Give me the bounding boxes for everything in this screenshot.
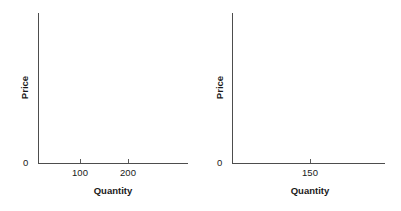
chart-panel-left: 100 200 0 Price Quantity: [0, 0, 200, 211]
x-tick-label-left-2: 200: [114, 167, 142, 178]
chart-panel-right: 150 0 Price Quantity: [200, 0, 401, 211]
x-axis-line-right: [232, 163, 385, 164]
origin-label-right: 0: [217, 157, 222, 168]
x-axis-title-left: Quantity: [63, 185, 163, 196]
x-tick-label-left-1: 100: [66, 167, 94, 178]
x-tick-mark-right-1: [310, 159, 311, 163]
y-axis-title-right: Price: [214, 68, 225, 108]
y-axis-line-right: [232, 13, 233, 164]
origin-label-left: 0: [23, 157, 28, 168]
x-tick-mark-left-1: [80, 159, 81, 163]
x-axis-line-left: [38, 163, 188, 164]
y-axis-title-left: Price: [19, 68, 30, 108]
x-tick-label-right-1: 150: [296, 167, 324, 178]
figure-canvas: 100 200 0 Price Quantity 150 0 Price Qua…: [0, 0, 401, 211]
x-axis-title-right: Quantity: [260, 185, 360, 196]
y-axis-line-left: [38, 13, 39, 164]
x-tick-mark-left-2: [128, 159, 129, 163]
